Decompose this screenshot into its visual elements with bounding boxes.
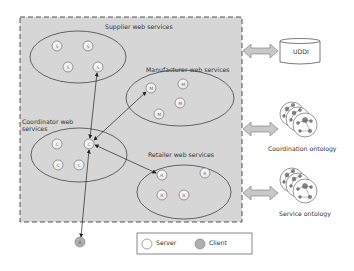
- server-node-m2[interactable]: M: [178, 79, 188, 89]
- svg-text:M: M: [181, 82, 185, 87]
- service-ontology-icon[interactable]: [280, 168, 317, 203]
- server-node-m1[interactable]: M: [146, 83, 156, 93]
- server-node-c3[interactable]: C: [53, 160, 63, 170]
- legend-server-label: Server: [156, 239, 177, 246]
- client-node[interactable]: B: [75, 237, 85, 247]
- double-arrow-coordination: [243, 122, 278, 136]
- coordination-ontology-label: Coordination ontology: [268, 145, 337, 153]
- architecture-diagram: Supplier web services S S S S Manufactur…: [0, 0, 354, 271]
- svg-text:S: S: [97, 65, 100, 70]
- svg-text:R: R: [203, 171, 206, 176]
- server-node-c2[interactable]: C: [84, 139, 94, 149]
- svg-text:M: M: [157, 112, 161, 117]
- uddi-label: UDDI: [293, 48, 309, 55]
- server-node-c1[interactable]: C: [52, 139, 62, 149]
- server-node-r4[interactable]: R: [179, 190, 189, 200]
- svg-text:M: M: [149, 86, 153, 91]
- svg-text:C: C: [78, 163, 81, 168]
- svg-text:B: B: [78, 240, 81, 245]
- server-node-r2[interactable]: R: [200, 168, 210, 178]
- svg-text:M: M: [178, 101, 182, 106]
- svg-text:R: R: [182, 193, 185, 198]
- server-node-c4[interactable]: C: [74, 160, 84, 170]
- svg-text:C: C: [88, 142, 91, 147]
- server-node-m3[interactable]: M: [175, 98, 185, 108]
- server-node-m4[interactable]: M: [154, 109, 164, 119]
- server-node-s3[interactable]: S: [63, 62, 73, 72]
- double-arrow-service: [243, 186, 278, 200]
- svg-text:S: S: [87, 44, 90, 49]
- legend: Server Client: [137, 233, 252, 254]
- legend-server-swatch: [142, 239, 152, 249]
- uddi-database-icon[interactable]: UDDI: [280, 39, 320, 65]
- svg-text:R: R: [160, 193, 163, 198]
- supplier-label: Supplier web services: [105, 23, 173, 31]
- server-node-s4[interactable]: S: [93, 62, 103, 72]
- coordinator-label-line1: Coordinator web: [22, 118, 73, 125]
- coordinator-label-line2: services: [22, 125, 47, 132]
- server-node-r1[interactable]: R: [157, 170, 167, 180]
- server-node-r3[interactable]: R: [157, 190, 167, 200]
- legend-client-swatch: [195, 239, 205, 249]
- svg-text:R: R: [160, 173, 163, 178]
- server-node-s2[interactable]: S: [83, 41, 93, 51]
- svg-text:S: S: [67, 65, 70, 70]
- svg-text:C: C: [57, 163, 60, 168]
- legend-client-label: Client: [209, 239, 227, 246]
- coordination-ontology-icon[interactable]: [280, 102, 317, 137]
- server-node-s1[interactable]: S: [52, 41, 62, 51]
- service-ontology-label: Service ontology: [279, 210, 331, 218]
- double-arrow-uddi: [243, 44, 278, 58]
- svg-text:C: C: [56, 142, 59, 147]
- retailer-label: Retailer web services: [148, 151, 214, 158]
- svg-text:S: S: [56, 44, 59, 49]
